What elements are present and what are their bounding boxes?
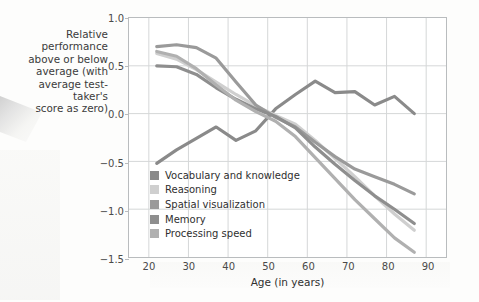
legend-item-label: Spatial visualization: [165, 199, 265, 210]
legend-swatch-icon: [150, 200, 159, 209]
x-axis-tick-label: 70: [342, 261, 355, 272]
y-axis-tick-label: −1.0: [100, 205, 124, 216]
legend-item[interactable]: Spatial visualization: [150, 197, 300, 212]
chart-page: Relative performance above or below aver…: [0, 0, 479, 302]
y-axis-tick-mark: [125, 211, 129, 212]
y-axis-tick-mark: [125, 114, 129, 115]
legend-swatch-icon: [150, 215, 159, 224]
y-axis-tick-mark: [125, 259, 129, 260]
y-axis-tick-label: −1.5: [100, 254, 124, 265]
legend-item[interactable]: Vocabulary and knowledge: [150, 168, 300, 183]
legend-swatch-icon: [150, 185, 159, 194]
legend-item-label: Reasoning: [165, 184, 217, 195]
x-axis-label: Age (in years): [128, 276, 447, 288]
y-axis-tick-mark: [125, 66, 129, 67]
y-axis-tick-mark: [125, 18, 129, 19]
y-axis-tick-mark: [125, 163, 129, 164]
y-axis-tick-label: −0.5: [100, 157, 124, 168]
x-axis-tick-label: 20: [143, 261, 156, 272]
legend-item-label: Memory: [165, 214, 206, 225]
y-axis-tick-label: 0.0: [108, 109, 124, 120]
y-axis-caption: Relative performance above or below aver…: [4, 28, 108, 115]
plot-area: Vocabulary and knowledgeReasoningSpatial…: [128, 17, 447, 258]
y-axis-tick-label: 1.0: [108, 13, 124, 24]
legend-swatch-icon: [150, 171, 159, 180]
x-axis-tick-label: 50: [262, 261, 275, 272]
paper-artifact-lower-left: [0, 150, 60, 300]
x-axis-tick-label: 60: [302, 261, 315, 272]
x-axis-tick-label: 30: [182, 261, 195, 272]
legend-item-label: Processing speed: [165, 228, 252, 239]
x-axis-tick-label: 80: [382, 261, 395, 272]
legend-item[interactable]: Processing speed: [150, 226, 300, 241]
legend-item[interactable]: Memory: [150, 212, 300, 227]
x-axis-tick-label: 40: [222, 261, 235, 272]
chart-legend: Vocabulary and knowledgeReasoningSpatial…: [150, 168, 300, 241]
legend-item[interactable]: Reasoning: [150, 183, 300, 198]
legend-swatch-icon: [150, 229, 159, 238]
x-axis-tick-label: 90: [422, 261, 435, 272]
legend-item-label: Vocabulary and knowledge: [165, 170, 300, 181]
y-axis-tick-label: 0.5: [108, 61, 124, 72]
